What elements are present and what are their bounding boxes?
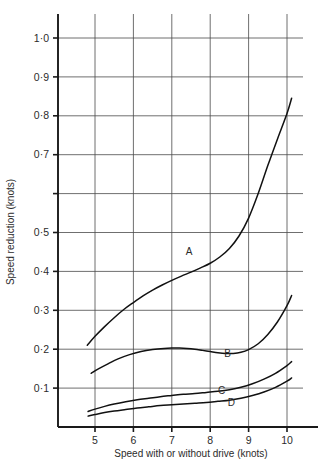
y-axis-title: Speed reduction (knots) <box>5 179 16 285</box>
vertical-gridlines <box>95 14 287 427</box>
y-tick-label: 0·4 <box>34 265 49 277</box>
x-axis-tick-labels: 5678910 <box>92 434 293 446</box>
chart-plot-area: ABCD 0·10·20·30·40·50·70·80·91·0 5678910… <box>0 0 321 459</box>
y-tick-label: 0·7 <box>34 148 49 160</box>
curve-b <box>91 296 291 374</box>
speed-reduction-chart: ABCD 0·10·20·30·40·50·70·80·91·0 5678910… <box>0 0 321 459</box>
curve-label-a: A <box>186 246 193 257</box>
x-axis-title: Speed with or without drive (knots) <box>114 448 267 459</box>
x-tick-label: 5 <box>92 434 98 446</box>
curve-d <box>88 378 292 416</box>
x-tick-label: 7 <box>169 434 175 446</box>
x-tick-label: 6 <box>130 434 136 446</box>
curve-a <box>87 98 291 345</box>
x-tick-label: 9 <box>246 434 252 446</box>
axis-lines <box>58 14 318 427</box>
curve-label-b: B <box>224 348 231 359</box>
curve-label-c: C <box>218 385 225 396</box>
curve-label-d: D <box>228 397 235 408</box>
y-tick-label: 1·0 <box>34 32 49 44</box>
y-tick-label: 0·5 <box>34 226 49 238</box>
y-tick-label: 0·8 <box>34 109 49 121</box>
y-tick-label: 0·9 <box>34 71 49 83</box>
x-tick-label: 8 <box>207 434 213 446</box>
x-tick-label: 10 <box>281 434 293 446</box>
y-tick-label: 0·2 <box>34 343 49 355</box>
y-tick-label: 0·3 <box>34 304 49 316</box>
y-tick-label: 0·1 <box>34 382 49 394</box>
y-axis-tick-labels: 0·10·20·30·40·50·70·80·91·0 <box>34 32 49 394</box>
